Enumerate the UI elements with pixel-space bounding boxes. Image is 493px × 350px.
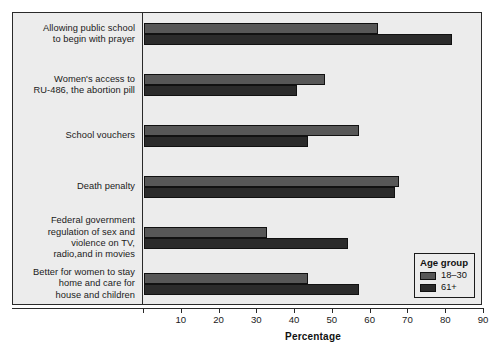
x-tick-label-80: 80 bbox=[430, 314, 460, 325]
category-label-4-line-0: Federal government bbox=[17, 215, 135, 226]
x-tick-label-20: 20 bbox=[204, 314, 234, 325]
chart-legend: Age group 18–30 61+ bbox=[414, 253, 475, 298]
category-label-3-line-0: Death penalty bbox=[17, 181, 135, 192]
x-tick-label-60: 60 bbox=[355, 314, 385, 325]
bar-group-0-series-1 bbox=[144, 34, 452, 45]
plot-frame: Allowing public schoolto begin with pray… bbox=[12, 12, 482, 305]
legend-label-18-30: 18–30 bbox=[441, 270, 467, 281]
legend-title: Age group bbox=[420, 257, 468, 268]
x-tick-20 bbox=[219, 308, 220, 313]
category-label-2: School vouchers bbox=[17, 130, 135, 141]
x-tick-60 bbox=[370, 308, 371, 313]
bar-group-1-series-0 bbox=[144, 74, 325, 85]
x-tick-label-90: 90 bbox=[468, 314, 493, 325]
x-axis-stub bbox=[12, 308, 143, 309]
bar-group-4-series-1 bbox=[144, 238, 348, 249]
category-label-5: Better for women to stayhome and care fo… bbox=[17, 267, 135, 301]
category-label-1-line-0: Women's access to bbox=[17, 74, 135, 85]
legend-item-61-plus: 61+ bbox=[420, 282, 468, 293]
legend-swatch-61-plus bbox=[420, 284, 436, 292]
category-label-4-line-2: violence on TV, bbox=[17, 238, 135, 249]
x-axis-title: Percentage bbox=[143, 331, 483, 342]
category-label-1: Women's access toRU-486, the abortion pi… bbox=[17, 74, 135, 97]
bar-group-4-series-0 bbox=[144, 227, 267, 238]
legend-swatch-18-30 bbox=[420, 272, 436, 280]
x-tick-label-30: 30 bbox=[241, 314, 271, 325]
x-tick-30 bbox=[256, 308, 257, 313]
category-label-4: Federal governmentregulation of sex andv… bbox=[17, 215, 135, 261]
category-label-5-line-2: house and children bbox=[17, 290, 135, 301]
bar-group-0-series-0 bbox=[144, 23, 378, 34]
x-tick-90 bbox=[483, 308, 484, 313]
bar-group-3-series-1 bbox=[144, 187, 395, 198]
x-tick-label-40: 40 bbox=[279, 314, 309, 325]
x-tick-label-50: 50 bbox=[317, 314, 347, 325]
category-label-4-line-3: radio,and in movies bbox=[17, 249, 135, 260]
x-tick-70 bbox=[407, 308, 408, 313]
chart-figure: Allowing public schoolto begin with pray… bbox=[0, 0, 493, 350]
category-label-0-line-0: Allowing public school bbox=[17, 23, 135, 34]
x-tick-label-10: 10 bbox=[166, 314, 196, 325]
x-tick-80 bbox=[445, 308, 446, 313]
category-label-1-line-1: RU-486, the abortion pill bbox=[17, 85, 135, 96]
bar-group-5-series-1 bbox=[144, 284, 359, 295]
category-label-5-line-0: Better for women to stay bbox=[17, 267, 135, 278]
bar-group-2-series-0 bbox=[144, 125, 359, 136]
legend-item-18-30: 18–30 bbox=[420, 270, 468, 281]
category-label-panel: Allowing public schoolto begin with pray… bbox=[13, 13, 143, 304]
bar-group-1-series-1 bbox=[144, 85, 297, 96]
x-axis-line bbox=[143, 308, 483, 309]
x-tick-40 bbox=[294, 308, 295, 313]
x-tick-10 bbox=[181, 308, 182, 313]
x-tick-0 bbox=[143, 308, 144, 313]
bar-group-5-series-0 bbox=[144, 273, 308, 284]
category-label-5-line-1: home and care for bbox=[17, 278, 135, 289]
x-tick-50 bbox=[332, 308, 333, 313]
category-label-0-line-1: to begin with prayer bbox=[17, 34, 135, 45]
x-tick-label-70: 70 bbox=[392, 314, 422, 325]
bar-group-2-series-1 bbox=[144, 136, 308, 147]
category-label-4-line-1: regulation of sex and bbox=[17, 227, 135, 238]
category-label-3: Death penalty bbox=[17, 181, 135, 192]
category-label-0: Allowing public schoolto begin with pray… bbox=[17, 23, 135, 46]
legend-label-61-plus: 61+ bbox=[441, 282, 457, 293]
bar-group-3-series-0 bbox=[144, 176, 399, 187]
category-label-2-line-0: School vouchers bbox=[17, 130, 135, 141]
